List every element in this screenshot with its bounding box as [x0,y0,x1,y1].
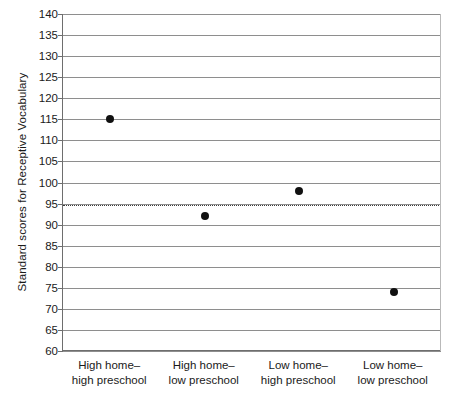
gridline [63,56,441,57]
y-axis-tick-label: 95 [45,198,58,210]
x-axis-category-label-line: high preschool [261,373,336,388]
y-axis-tick-mark [58,309,63,310]
y-axis-tick-label: 80 [45,261,58,273]
y-axis-tick-label: 90 [45,219,58,231]
gridline [63,330,441,331]
gridline [63,14,441,15]
scatter-chart-figure: Standard scores for Receptive Vocabulary… [0,0,457,408]
reference-line [63,205,441,206]
y-axis-tick-mark [58,288,63,289]
data-point [106,115,114,123]
y-axis-tick-mark [58,351,63,352]
y-axis-tick-labels: 1401351301251201151101051009590858075706… [28,14,58,351]
y-axis-tick-label: 85 [45,240,58,252]
x-axis-category-label-line: High home– [169,358,239,373]
gridline [63,267,441,268]
gridline [63,183,441,184]
plot-area [62,14,440,351]
gridline [63,119,441,120]
x-axis-category-label: Low home–low preschool [358,358,428,387]
gridline [63,77,441,78]
y-axis-tick-label: 130 [39,50,58,62]
gridline [63,140,441,141]
gridline [63,246,441,247]
y-axis-tick-label: 70 [45,303,58,315]
y-axis-tick-label: 100 [39,177,58,189]
x-axis-category-label-line: low preschool [169,373,239,388]
x-axis-category-label: High home–low preschool [169,358,239,387]
y-axis-tick-label: 65 [45,324,58,336]
x-axis-category-label-line: High home– [72,358,147,373]
gridline [63,161,441,162]
x-axis-category-label-line: high preschool [72,373,147,388]
y-axis-tick-mark [58,330,63,331]
y-axis-tick-label: 60 [45,345,58,357]
gridline [63,98,441,99]
y-axis-tick-mark [58,14,63,15]
y-axis-tick-label: 125 [39,71,58,83]
y-axis-tick-label: 105 [39,155,58,167]
y-axis-tick-label: 135 [39,29,58,41]
y-axis-tick-mark [58,140,63,141]
y-axis-tick-mark [58,56,63,57]
gridline [63,351,441,352]
gridline [63,309,441,310]
y-axis-tick-mark [58,161,63,162]
x-axis-category-label-line: low preschool [358,373,428,388]
y-axis-tick-mark [58,246,63,247]
x-axis-category-label: High home–high preschool [72,358,147,387]
y-axis-tick-mark [58,267,63,268]
y-axis-tick-mark [58,98,63,99]
y-axis-tick-mark [58,77,63,78]
x-axis-category-labels: High home–high preschoolHigh home–low pr… [62,358,440,398]
gridline [63,288,441,289]
y-axis-tick-mark [58,225,63,226]
gridline [63,225,441,226]
y-axis-tick-mark [58,183,63,184]
y-axis-tick-label: 140 [39,8,58,20]
y-axis-tick-label: 120 [39,92,58,104]
y-axis-tick-mark [58,35,63,36]
y-axis-tick-mark [58,119,63,120]
data-point [201,212,209,220]
data-point [390,288,398,296]
x-axis-category-label: Low home–high preschool [261,358,336,387]
data-point [295,187,303,195]
y-axis-tick-label: 110 [40,134,58,146]
y-axis-tick-label: 115 [40,113,58,125]
x-axis-category-label-line: Low home– [358,358,428,373]
gridline [63,35,441,36]
y-axis-tick-label: 75 [45,282,58,294]
x-axis-category-label-line: Low home– [261,358,336,373]
